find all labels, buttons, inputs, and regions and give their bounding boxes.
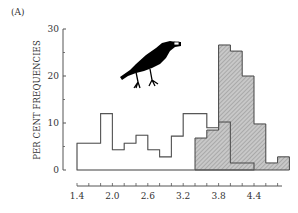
x-tick-label: 4.4 (247, 191, 262, 201)
x-tick-label: 1.4 (70, 191, 85, 201)
histogram-chart: 01020301.42.02.63.23.84.4 (0, 0, 298, 213)
y-tick-label: 20 (48, 71, 60, 81)
hatched-histogram (195, 45, 289, 170)
whelk-shell-icon (174, 42, 179, 45)
x-tick-label: 3.8 (211, 191, 226, 201)
x-tick-label: 2.6 (141, 191, 156, 201)
y-tick-label: 30 (48, 24, 60, 34)
crow-icon (120, 41, 181, 88)
y-tick-label: 0 (53, 165, 59, 175)
hatched-series (195, 45, 289, 170)
y-tick-label: 10 (48, 118, 60, 128)
x-tick-label: 2.0 (105, 191, 120, 201)
x-tick-label: 3.2 (176, 191, 190, 201)
